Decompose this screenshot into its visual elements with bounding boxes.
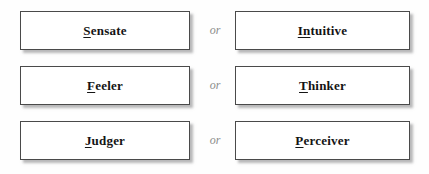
option-label: Intuitive [298,24,348,37]
preference-pairs-diagram: Sensate or Intuitive Feeler or Thinker J… [0,0,429,174]
option-key-letter: S [83,23,90,38]
option-rest-letters: tuitive [310,23,347,38]
option-box-judger[interactable]: Judger [20,121,190,160]
option-key-letter: In [298,23,311,38]
separator-or: or [198,79,232,91]
option-key-letter: P [295,133,303,148]
option-label: Thinker [299,79,346,92]
separator-or: or [198,134,232,146]
option-box-intuitive[interactable]: Intuitive [235,11,410,50]
option-box-feeler[interactable]: Feeler [20,66,190,105]
option-box-thinker[interactable]: Thinker [235,66,410,105]
preference-pair-row: Feeler or Thinker [0,65,429,105]
option-rest-letters: udger [92,133,126,148]
option-rest-letters: ensate [91,23,127,38]
option-rest-letters: erceiver [304,133,350,148]
preference-pair-row: Sensate or Intuitive [0,10,429,50]
preference-pair-row: Judger or Perceiver [0,120,429,160]
option-label: Sensate [83,24,126,37]
option-label: Feeler [87,79,123,92]
option-key-letter: T [299,78,308,93]
separator-or: or [198,24,232,36]
option-rest-letters: hinker [308,78,346,93]
option-label: Judger [85,134,125,147]
option-rest-letters: eeler [95,78,123,93]
option-box-perceiver[interactable]: Perceiver [235,121,410,160]
option-label: Perceiver [295,134,349,147]
option-key-letter: J [85,133,92,148]
option-box-sensate[interactable]: Sensate [20,11,190,50]
option-key-letter: F [87,78,95,93]
